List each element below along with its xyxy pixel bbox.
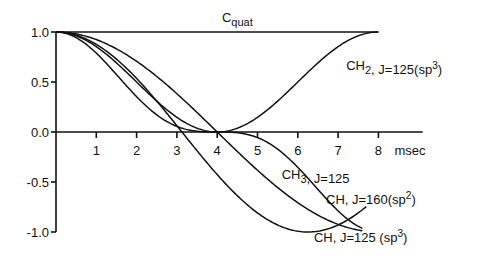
series-line-1 <box>56 32 378 132</box>
series-label-2: CH3, J=125 <box>282 167 350 186</box>
y-tick-label: 1.0 <box>31 25 49 40</box>
x-tick-label: 3 <box>173 143 180 158</box>
y-tick-label: 0.5 <box>31 75 49 90</box>
y-tick-label: 0.0 <box>31 125 49 140</box>
x-tick-label: 7 <box>334 143 341 158</box>
series-line-2 <box>56 32 362 228</box>
labels: CquatCH2, J=125(sp3)CH3, J=125CH, J=160(… <box>222 10 442 245</box>
series-label-4: CH, J=125 (sp3) <box>314 228 407 245</box>
x-tick-label: 1 <box>93 143 100 158</box>
x-tick-label: 4 <box>214 143 221 158</box>
series-label-3: CH, J=160(sp2) <box>326 190 416 207</box>
x-tick-label: 2 <box>133 143 140 158</box>
series-label-0: Cquat <box>222 10 253 28</box>
x-tick-label: 5 <box>254 143 261 158</box>
x-tick-label: 6 <box>294 143 301 158</box>
series-label-1: CH2, J=125(sp3) <box>346 58 442 77</box>
x-tick-label: 8 <box>375 143 382 158</box>
x-axis-label: msec <box>394 143 426 158</box>
y-tick-label: -1.0 <box>27 225 49 240</box>
y-tick-label: -0.5 <box>27 175 49 190</box>
chart: 1.00.50.0-0.5-1.012345678msec CquatCH2, … <box>0 0 485 264</box>
